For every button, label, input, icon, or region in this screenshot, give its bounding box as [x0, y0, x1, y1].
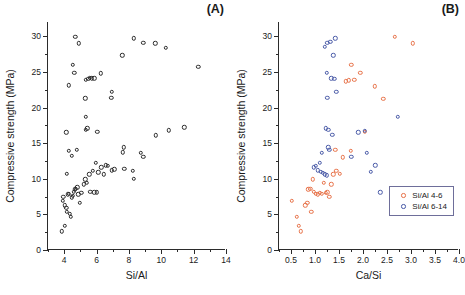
data-point [73, 35, 77, 39]
data-point [70, 154, 74, 158]
data-point [102, 172, 106, 176]
panel-b-y-tick-label: 10 [263, 174, 272, 184]
panel-b-x-tick [303, 249, 304, 252]
panel-b-x-tick-label: 1.5 [333, 255, 345, 265]
data-point [95, 190, 99, 194]
data-point [331, 53, 335, 57]
panel-b-y-tick [274, 214, 279, 215]
panel-b-x-tick [315, 249, 316, 254]
panel-a-x-tick [129, 249, 130, 254]
data-point [333, 36, 337, 40]
panel-b-y-tick [274, 72, 279, 73]
data-point [122, 167, 126, 171]
panel-b-x-tick-label: 2.0 [357, 255, 369, 265]
panel-a-y-tick [45, 232, 48, 233]
data-point [325, 95, 329, 99]
data-point [63, 224, 67, 228]
data-point [321, 181, 325, 185]
data-point [324, 173, 328, 177]
legend-item-series-1: Si/Al 4-6 [394, 190, 447, 201]
data-point [94, 161, 98, 165]
panel-a-x-tick [97, 249, 98, 254]
legend-label-series-1: Si/Al 4-6 [412, 191, 442, 200]
data-point [71, 63, 75, 67]
panel-b-x-tick [375, 249, 376, 252]
panel-a-y-tick-label: 15 [32, 138, 41, 148]
data-point [182, 125, 186, 129]
data-point [153, 133, 157, 137]
data-point [79, 191, 83, 195]
legend-item-series-2: Si/Al 6-14 [394, 201, 447, 212]
panel-b-y-tick-label: 15 [263, 138, 272, 148]
data-point [411, 41, 415, 45]
data-point [329, 182, 333, 186]
panel-a-x-tick-label: 14 [221, 255, 230, 265]
panel-b-y-tick [276, 54, 279, 55]
panel-a-x-tick [145, 249, 146, 252]
panel-b-x-tick [339, 249, 340, 254]
panel-a-y-tick [45, 125, 48, 126]
data-point [330, 132, 334, 136]
data-point [378, 190, 382, 194]
panel-a-y-tick [43, 72, 48, 73]
data-point [381, 97, 385, 101]
data-point [131, 169, 135, 173]
data-point [334, 90, 338, 94]
data-point [324, 70, 328, 74]
panel-a-x-tick-label: 6 [94, 255, 99, 265]
data-point [296, 224, 300, 228]
data-point [341, 155, 345, 159]
panel-a-x-tick-label: 4 [62, 255, 67, 265]
data-point [153, 41, 157, 45]
data-point [333, 147, 337, 151]
legend-label-series-2: Si/Al 6-14 [412, 202, 447, 211]
panel-a-x-axis-title: Si/Al [126, 269, 148, 281]
panel-b-y-tick-label: 25 [263, 67, 272, 77]
data-point [71, 194, 75, 198]
panel-a-data-area [48, 22, 225, 249]
data-point [109, 95, 113, 99]
panel-b-y-axis-title: Compressive strength (MPa) [235, 69, 247, 203]
data-point [392, 35, 396, 39]
data-point [372, 84, 376, 88]
panel-b-y-tick [274, 179, 279, 180]
data-point [326, 127, 330, 131]
panel-b-y-tick-label: 0 [267, 245, 272, 255]
panel-a-y-tick-label: 5 [36, 209, 41, 219]
panel-a-x-tick-label: 10 [157, 255, 166, 265]
panel-b-x-tick-label: 3.5 [429, 255, 441, 265]
data-point [320, 151, 324, 155]
panel-b-x-tick [279, 249, 280, 252]
data-point [141, 40, 145, 44]
panel-b-y-tick [276, 90, 279, 91]
panel-b-y-tick-label: 5 [267, 209, 272, 219]
panel-a-x-tick-label: 8 [127, 255, 132, 265]
panel-a-y-tick-label: 25 [32, 67, 41, 77]
panel-a-y-tick [43, 214, 48, 215]
panel-b-y-tick [274, 36, 279, 37]
data-point [328, 40, 332, 44]
data-point [75, 185, 79, 189]
data-point [75, 147, 79, 151]
panel-b-y-tick [276, 232, 279, 233]
panel-a-y-tick [43, 108, 48, 109]
data-point [349, 63, 353, 67]
panel-b-x-tick [423, 249, 424, 252]
data-point [368, 169, 372, 173]
panel-a-y-axis-title: Compressive strength (MPa) [4, 69, 16, 203]
data-point [348, 149, 352, 153]
panel-a-x-tick [194, 249, 195, 254]
data-point [64, 130, 68, 134]
data-point [95, 130, 99, 134]
data-point [85, 126, 89, 130]
panel-a-y-tick [43, 179, 48, 180]
panel-b-y-tick [276, 125, 279, 126]
data-point [67, 83, 71, 87]
panel-a-x-tick [177, 249, 178, 252]
panel-a-y-tick [45, 90, 48, 91]
panel-b-x-tick [327, 249, 328, 252]
data-point [60, 229, 64, 233]
data-point [92, 76, 96, 80]
data-point [311, 177, 315, 181]
data-point [110, 90, 114, 94]
